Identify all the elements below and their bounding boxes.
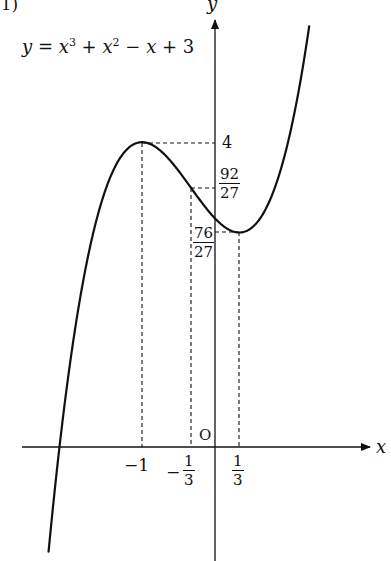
frac-den: 3 <box>183 472 195 488</box>
frac-den: 3 <box>232 472 244 488</box>
eq-exp-2: 2 <box>113 36 120 49</box>
eq-minus: − <box>125 36 140 57</box>
x-axis-label: x <box>376 436 386 457</box>
frac-num: 76 <box>193 225 214 241</box>
eq-term-x3: x <box>59 36 69 57</box>
function-graph <box>0 0 391 561</box>
y-tick-4: 4 <box>222 133 232 152</box>
x-tick-minus-third-sign: − <box>166 462 180 482</box>
eq-plus-3: + 3 <box>162 36 194 57</box>
eq-plus-1: + <box>82 36 97 57</box>
equals-sign: = <box>38 36 59 57</box>
eq-term-x: x <box>146 36 156 57</box>
frac-num: 1 <box>232 453 244 469</box>
y-axis-label: y <box>207 0 217 14</box>
eq-term-x2: x <box>102 36 112 57</box>
frac-den: 27 <box>193 244 214 260</box>
frac-num: 92 <box>219 166 240 182</box>
equation-label: y = x3 + x2 − x + 3 <box>22 36 194 57</box>
origin-label: O <box>199 426 211 444</box>
frac-den: 27 <box>219 185 240 201</box>
frac-num: 1 <box>183 453 195 469</box>
y-tick-92-27: 92 27 <box>219 166 240 201</box>
x-tick-third: 1 3 <box>232 453 244 488</box>
x-tick-minus-1: −1 <box>124 455 149 475</box>
x-tick-minus-third: 1 3 <box>183 453 195 488</box>
problem-label: (1) <box>0 0 18 14</box>
eq-exp-3: 3 <box>69 36 76 49</box>
y-tick-76-27: 76 27 <box>193 225 214 260</box>
equation-lhs: y <box>22 36 32 57</box>
